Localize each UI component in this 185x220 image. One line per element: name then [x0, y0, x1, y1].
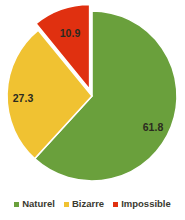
chart-legend: Naturel Bizarre Impossible — [0, 193, 185, 215]
slice-value-impossible: 10.9 — [60, 27, 81, 39]
legend-label-naturel: Naturel — [22, 199, 55, 209]
slice-value-bizarre: 27.3 — [13, 92, 34, 104]
pie-svg: 61.8 27.3 10.9 — [0, 0, 185, 190]
slice-value-naturel: 61.8 — [143, 121, 164, 133]
legend-swatch-naturel — [14, 202, 19, 207]
legend-item-naturel[interactable]: Naturel — [14, 199, 55, 209]
legend-item-impossible[interactable]: Impossible — [113, 199, 171, 209]
pie-plot-area: 61.8 27.3 10.9 — [0, 0, 185, 190]
pie-chart-figure: 61.8 27.3 10.9 Naturel Bizarre Impossibl… — [0, 0, 185, 220]
legend-item-bizarre[interactable]: Bizarre — [64, 199, 104, 209]
legend-swatch-bizarre — [64, 202, 69, 207]
legend-label-bizarre: Bizarre — [72, 199, 104, 209]
legend-label-impossible: Impossible — [121, 199, 171, 209]
legend-swatch-impossible — [113, 202, 118, 207]
